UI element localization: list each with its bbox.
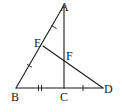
tick-mark-ae <box>51 26 56 29</box>
label-point-d: D <box>104 82 113 96</box>
segment-ed <box>43 46 103 88</box>
label-point-a: A <box>60 0 69 14</box>
label-point-c: C <box>60 90 68 104</box>
label-point-e: E <box>34 36 41 50</box>
geometry-diagram: A E F B C D <box>0 0 122 112</box>
label-point-b: B <box>11 90 19 104</box>
label-point-f: F <box>66 49 73 63</box>
